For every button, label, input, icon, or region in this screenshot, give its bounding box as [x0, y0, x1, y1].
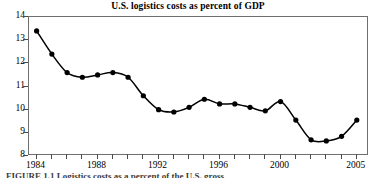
data-point: [202, 97, 207, 102]
y-tick-label: 11: [3, 81, 25, 90]
data-point: [232, 101, 237, 106]
y-tick-label: 14: [3, 11, 25, 20]
figure-caption: FIGURE 1.1 Logistics costs as a percent …: [6, 171, 376, 178]
x-tick-mark: [36, 154, 37, 159]
x-tick-mark: [158, 154, 159, 159]
x-tick-mark: [51, 154, 52, 159]
plot-area: [28, 16, 368, 155]
data-point: [95, 72, 100, 77]
data-point: [339, 134, 344, 139]
data-point: [308, 137, 313, 142]
y-axis: 891011121314: [0, 0, 25, 178]
x-tick-mark: [310, 154, 311, 159]
data-point: [156, 107, 161, 112]
y-tick-label: 8: [3, 150, 25, 159]
x-tick-mark: [295, 154, 296, 159]
y-tick-label: 13: [3, 34, 25, 43]
x-tick-label: 1984: [26, 160, 45, 170]
x-tick-label: 1992: [148, 160, 167, 170]
x-tick-mark: [249, 154, 250, 159]
x-tick-mark: [173, 154, 174, 159]
x-tick-mark: [203, 154, 204, 159]
y-tick-label: 10: [3, 104, 25, 113]
x-tick-mark: [356, 154, 357, 159]
chart-figure: U.S. logistics costs as percent of GDP 8…: [0, 0, 376, 178]
data-point: [110, 70, 115, 75]
data-point: [65, 70, 70, 75]
x-tick-mark: [280, 154, 281, 159]
x-tick-mark: [264, 154, 265, 159]
line-series: [29, 17, 369, 156]
data-point: [171, 109, 176, 114]
x-tick-label: 2000: [270, 160, 289, 170]
data-point: [354, 117, 359, 122]
x-tick-mark: [97, 154, 98, 159]
series-line: [37, 31, 357, 142]
y-tick-label: 12: [3, 57, 25, 66]
x-tick-mark: [66, 154, 67, 159]
data-point: [324, 138, 329, 143]
x-tick-mark: [112, 154, 113, 159]
data-point: [80, 75, 85, 80]
data-point: [217, 101, 222, 106]
data-point: [141, 93, 146, 98]
y-tick-label: 9: [3, 127, 25, 136]
x-tick-mark: [234, 154, 235, 159]
data-point: [34, 28, 39, 33]
x-tick-mark: [188, 154, 189, 159]
chart-title: U.S. logistics costs as percent of GDP: [0, 1, 376, 11]
x-tick-label: 2005: [346, 160, 365, 170]
x-tick-label: 1996: [209, 160, 228, 170]
x-tick-mark: [325, 154, 326, 159]
data-point: [186, 105, 191, 110]
data-point: [293, 117, 298, 122]
data-point: [49, 51, 54, 56]
data-point: [278, 99, 283, 104]
x-tick-mark: [341, 154, 342, 159]
x-tick-label: 1988: [87, 160, 106, 170]
data-point: [263, 108, 268, 113]
x-tick-mark: [219, 154, 220, 159]
data-point: [247, 105, 252, 110]
x-tick-mark: [142, 154, 143, 159]
x-tick-mark: [81, 154, 82, 159]
x-tick-mark: [127, 154, 128, 159]
data-point: [126, 75, 131, 80]
